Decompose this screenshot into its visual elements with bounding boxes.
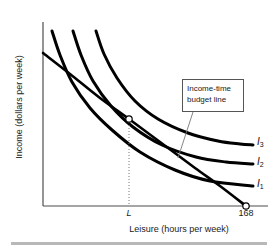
- curve-label-i3: I3: [257, 136, 264, 147]
- bottom-divider-rule: [11, 242, 267, 245]
- curve-label-i3-sub: 3: [260, 141, 264, 148]
- income-time-budget-line: [43, 53, 246, 206]
- x-tick-label-l: L: [120, 208, 138, 218]
- tangency-point-marker: [126, 116, 132, 122]
- y-axis-title: Income (dollars per week): [14, 37, 24, 177]
- x-axis-title: Leisure (hours per week): [84, 224, 274, 234]
- budget-line-callout-box: Income-time budget line: [182, 79, 244, 112]
- curve-label-i1-sub: 1: [260, 183, 264, 190]
- callout-text-line-2: budget line: [187, 94, 243, 105]
- curve-label-i2: I2: [257, 156, 264, 167]
- curve-label-i1: I1: [257, 178, 264, 189]
- indifference-curve-figure: Income (dollars per week) Leisure (hours…: [0, 0, 278, 251]
- curve-label-i2-sub: 2: [260, 161, 264, 168]
- callout-text-line-1: Income-time: [187, 83, 243, 94]
- x-tick-label-168: 168: [230, 208, 262, 218]
